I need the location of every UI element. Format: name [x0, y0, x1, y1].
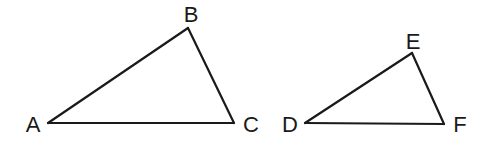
vertex-label-f: F [453, 112, 466, 137]
vertex-label-a: A [26, 112, 41, 137]
similar-triangles-diagram: A B C D E F [0, 0, 497, 159]
triangle-abc: A B C [26, 2, 259, 137]
vertex-label-d: D [282, 112, 298, 137]
side-de [305, 53, 412, 123]
side-ef [412, 53, 444, 124]
vertex-label-b: B [184, 2, 199, 27]
triangle-def: D E F [282, 29, 467, 137]
side-ab [48, 28, 188, 123]
vertex-label-c: C [243, 112, 259, 137]
side-bc [188, 28, 234, 123]
vertex-label-e: E [406, 29, 421, 54]
side-fd [305, 123, 444, 124]
